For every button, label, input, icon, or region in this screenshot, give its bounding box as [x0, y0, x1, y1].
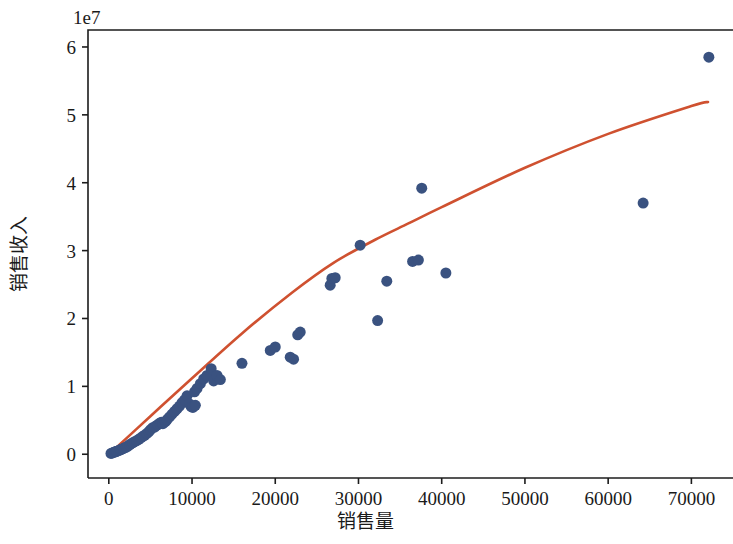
scatter-point	[215, 374, 226, 385]
scatter-point	[355, 240, 366, 251]
scatter-point	[381, 276, 392, 287]
y-tick-label: 2	[67, 308, 77, 329]
scatter-point	[330, 272, 341, 283]
x-tick-label: 40000	[418, 488, 466, 509]
y-tick-label: 1	[67, 376, 77, 397]
x-tick-label: 50000	[501, 488, 549, 509]
scatter-point	[413, 255, 424, 266]
x-tick-label: 70000	[668, 488, 716, 509]
x-axis-title: 销售量	[337, 511, 394, 532]
figure-background	[0, 0, 733, 544]
y-tick-label: 6	[67, 37, 77, 58]
y-axis-offset-label: 1e7	[73, 7, 100, 28]
x-tick-label: 30000	[335, 488, 383, 509]
y-tick-label: 3	[67, 241, 77, 262]
scatter-point	[190, 400, 201, 411]
scatter-point	[270, 341, 281, 352]
scatter-point	[638, 198, 649, 209]
x-tick-label: 20000	[252, 488, 300, 509]
scatter-plot-canvas: 010000200003000040000500006000070000 012…	[0, 0, 733, 544]
y-tick-label: 4	[67, 173, 77, 194]
scatter-point	[703, 52, 714, 63]
y-tick-label: 5	[67, 105, 77, 126]
y-tick-label: 0	[67, 444, 77, 465]
x-tick-label: 0	[104, 488, 114, 509]
scatter-point	[288, 354, 299, 365]
scatter-point	[372, 315, 383, 326]
scatter-point	[236, 358, 247, 369]
y-axis-title: 销售收入	[9, 216, 30, 292]
chart-figure: 010000200003000040000500006000070000 012…	[0, 0, 733, 544]
x-tick-label: 10000	[168, 488, 216, 509]
scatter-point	[295, 327, 306, 338]
x-tick-label: 60000	[584, 488, 632, 509]
scatter-point	[440, 268, 451, 279]
scatter-point	[416, 183, 427, 194]
